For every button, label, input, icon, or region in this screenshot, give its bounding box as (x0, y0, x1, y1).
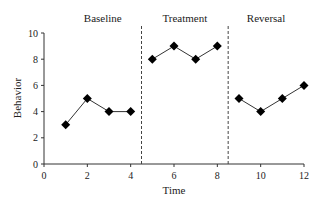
diamond-marker (278, 94, 287, 103)
phase-series-treatment (148, 42, 222, 64)
x-axis-label: Time (163, 184, 186, 196)
phase-labels: BaselineTreatmentReversal (84, 12, 286, 24)
x-tick-label: 6 (172, 170, 177, 181)
phase-label-treatment: Treatment (162, 12, 207, 24)
axes: 0246810024681012 (28, 28, 309, 182)
x-tick-label: 12 (299, 170, 309, 181)
diamond-marker (191, 55, 200, 64)
phase-series-reversal (235, 81, 309, 116)
diamond-marker (170, 42, 179, 51)
y-tick-label: 8 (33, 54, 38, 65)
diamond-marker (300, 81, 309, 90)
x-tick-label: 4 (128, 170, 133, 181)
x-tick-label: 0 (42, 170, 47, 181)
data-series (61, 42, 308, 130)
x-tick-label: 10 (256, 170, 266, 181)
diamond-marker (235, 94, 244, 103)
x-tick-label: 8 (215, 170, 220, 181)
y-tick-label: 6 (33, 80, 38, 91)
abab-single-case-chart: 0246810024681012 BaselineTreatmentRevers… (0, 0, 323, 204)
y-tick-label: 0 (33, 159, 38, 170)
diamond-marker (213, 42, 222, 51)
diamond-marker (105, 107, 114, 116)
phase-series-baseline (61, 94, 135, 129)
phase-label-reversal: Reversal (247, 12, 285, 24)
y-tick-label: 10 (28, 28, 38, 39)
diamond-marker (256, 107, 265, 116)
diamond-marker (148, 55, 157, 64)
diamond-marker (126, 107, 135, 116)
y-axis-label: Behavior (11, 78, 23, 119)
y-tick-label: 2 (33, 132, 38, 143)
phase-label-baseline: Baseline (84, 12, 122, 24)
y-tick-label: 4 (33, 106, 38, 117)
x-tick-label: 2 (85, 170, 90, 181)
